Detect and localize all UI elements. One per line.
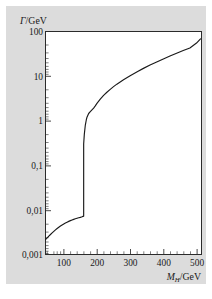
x-tick-label-500: 500 [190,258,204,268]
svg-text:MH/GeV: MH/GeV [166,271,201,283]
y-tick-label-0.1: 0,1 [31,161,43,171]
y-tick-label-0.001: 0,001 [22,250,43,260]
y-tick-label-100: 100 [29,27,43,37]
y-tick-label-1: 1 [38,116,43,126]
y-tick-label-0.01: 0,01 [27,206,44,216]
x-tick-label-400: 400 [157,258,171,268]
svg-text:Γ/GeV: Γ/GeV [19,15,47,26]
x-tick-label-100: 100 [57,258,71,268]
y-axis-tick-labels: 100 10 1 0,1 0,01 0,001 [22,27,43,260]
x-axis-title: MH/GeV [166,271,201,283]
x-tick-label-200: 200 [90,258,104,268]
y-tick-label-10: 10 [34,72,44,82]
y-axis-unit: /GeV [26,15,47,26]
x-axis-tick-labels: 100 200 300 400 500 [57,258,205,268]
x-tick-label-300: 300 [123,258,137,268]
chart-svg: 100 10 1 0,1 0,01 0,001 Γ/GeV [0,0,212,299]
x-axis-unit: /GeV [180,271,201,282]
plot-container: 100 10 1 0,1 0,01 0,001 Γ/GeV [0,0,212,299]
figure-root: 100 10 1 0,1 0,01 0,001 Γ/GeV [0,0,212,299]
y-axis-title: Γ/GeV [19,15,47,26]
